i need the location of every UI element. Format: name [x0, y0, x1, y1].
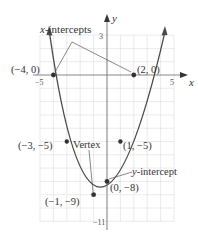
point-neg3-neg5: [65, 139, 69, 143]
point-2-0: [131, 73, 136, 78]
label-neg1-neg9: (−1, −9): [45, 196, 80, 208]
point-neg4-0: [51, 73, 56, 78]
x-axis-arrow-icon: [180, 72, 188, 78]
point-1-neg5: [118, 139, 122, 143]
label-2-0: (2, 0): [137, 64, 160, 76]
label-1-neg5: (1, −5): [123, 140, 152, 152]
point-neg1-neg9: [91, 192, 96, 197]
point-0-neg8: [105, 179, 110, 184]
curve-right-arrow-icon: [162, 26, 168, 36]
y-intercept-label: y-intercept: [131, 166, 177, 177]
vertex-label: Vertex: [73, 139, 101, 150]
y-axis-label: y: [111, 12, 117, 24]
x-axis-label: x: [188, 76, 194, 88]
label-0-neg8: (0, −8): [110, 182, 139, 194]
label-neg3-neg5: (−3, −5): [18, 140, 53, 152]
tick-y-min: −11: [93, 218, 105, 227]
tick-x-max: 5: [170, 78, 174, 87]
label-neg4-0: (−4, 0): [11, 64, 40, 76]
tick-y-max: 3: [99, 32, 103, 41]
x-intercepts-label: x-intercepts: [39, 23, 91, 35]
y-axis-arrow-icon: [104, 14, 110, 22]
parabola-graph: x y −5 5 3 −11 x-intercepts Vertex y-int…: [0, 0, 198, 239]
tick-x-min: −5: [35, 78, 44, 87]
